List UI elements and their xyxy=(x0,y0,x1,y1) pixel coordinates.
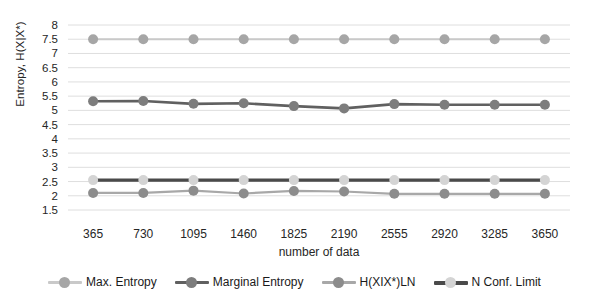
legend-label: Marginal Entropy xyxy=(213,275,304,289)
data-point-marker xyxy=(490,100,500,110)
series-h-xix-ln xyxy=(88,186,550,199)
data-point-marker xyxy=(440,100,450,110)
legend-item-max-entropy[interactable]: Max. Entropy xyxy=(48,275,157,289)
data-point-marker xyxy=(440,34,450,44)
data-point-marker xyxy=(189,99,199,109)
x-tick-label: 1095 xyxy=(168,227,218,241)
x-tick-label: 1460 xyxy=(219,227,269,241)
y-tick-label: 3 xyxy=(22,161,58,173)
data-point-marker xyxy=(339,103,349,113)
data-point-marker xyxy=(490,175,500,185)
data-point-marker xyxy=(88,188,98,198)
chart-legend: Max. EntropyMarginal EntropyH(XIX*)LNN C… xyxy=(0,268,589,296)
data-point-marker xyxy=(189,186,199,196)
y-tick-label: 4 xyxy=(22,133,58,145)
legend-dot xyxy=(59,277,70,288)
legend-dot xyxy=(186,277,197,288)
legend-label: N Conf. Limit xyxy=(472,275,541,289)
data-point-marker xyxy=(289,101,299,111)
x-tick-label: 3650 xyxy=(520,227,570,241)
x-tick-label: 1825 xyxy=(269,227,319,241)
data-point-marker xyxy=(189,34,199,44)
legend-marker-icon xyxy=(434,275,468,289)
data-point-marker xyxy=(540,175,550,185)
y-tick-label: 7 xyxy=(22,47,58,59)
series-line xyxy=(93,191,545,194)
data-point-marker xyxy=(88,96,98,106)
data-point-marker xyxy=(440,175,450,185)
legend-label: H(XIX*)LN xyxy=(360,275,416,289)
data-point-marker xyxy=(339,187,349,197)
legend-label: Max. Entropy xyxy=(86,275,157,289)
y-tick-label: 6.5 xyxy=(22,62,58,74)
data-point-marker xyxy=(138,175,148,185)
data-point-marker xyxy=(189,175,199,185)
data-point-marker xyxy=(239,188,249,198)
data-point-marker xyxy=(88,34,98,44)
data-point-marker xyxy=(490,34,500,44)
data-point-marker xyxy=(540,34,550,44)
x-tick-label: 3285 xyxy=(470,227,520,241)
series-line xyxy=(93,101,545,108)
y-tick-label: 1.5 xyxy=(22,204,58,216)
data-point-marker xyxy=(490,189,500,199)
data-point-marker xyxy=(88,175,98,185)
data-point-marker xyxy=(239,175,249,185)
y-tick-label: 5 xyxy=(22,104,58,116)
data-point-marker xyxy=(289,175,299,185)
data-point-marker xyxy=(138,34,148,44)
data-point-marker xyxy=(339,175,349,185)
y-tick-label: 7.5 xyxy=(22,33,58,45)
legend-item-marginal-entropy[interactable]: Marginal Entropy xyxy=(175,275,304,289)
legend-marker-icon xyxy=(322,275,356,289)
x-tick-label: 2555 xyxy=(369,227,419,241)
data-point-marker xyxy=(540,189,550,199)
data-point-marker xyxy=(138,188,148,198)
series-n-conf-limit xyxy=(88,175,550,185)
data-point-marker xyxy=(239,34,249,44)
legend-marker-icon xyxy=(48,275,82,289)
x-tick-label: 365 xyxy=(68,227,118,241)
data-point-marker xyxy=(289,186,299,196)
y-tick-label: 6 xyxy=(22,76,58,88)
data-point-marker xyxy=(138,96,148,106)
y-tick-label: 2.5 xyxy=(22,176,58,188)
y-tick-label: 2 xyxy=(22,190,58,202)
legend-item-h-xix-ln[interactable]: H(XIX*)LN xyxy=(322,275,416,289)
data-point-marker xyxy=(339,34,349,44)
data-point-marker xyxy=(389,34,399,44)
data-point-marker xyxy=(289,34,299,44)
y-tick-label: 8 xyxy=(22,19,58,31)
data-point-marker xyxy=(239,98,249,108)
y-tick-label: 3.5 xyxy=(22,147,58,159)
data-point-marker xyxy=(389,175,399,185)
legend-dot xyxy=(333,277,344,288)
x-tick-label: 730 xyxy=(118,227,168,241)
data-point-marker xyxy=(389,189,399,199)
x-axis-title: number of data xyxy=(68,245,570,259)
x-tick-label: 2920 xyxy=(419,227,469,241)
legend-marker-icon xyxy=(175,275,209,289)
legend-dot xyxy=(445,277,456,288)
entropy-line-chart: Entropy, H(X|X*) 87.576.565.554.543.532.… xyxy=(0,0,589,304)
data-point-marker xyxy=(540,100,550,110)
legend-item-n-conf-limit[interactable]: N Conf. Limit xyxy=(434,275,541,289)
x-tick-label: 2190 xyxy=(319,227,369,241)
data-point-marker xyxy=(389,99,399,109)
series-max-entropy xyxy=(88,34,550,44)
y-tick-label: 5.5 xyxy=(22,90,58,102)
y-tick-label: 4.5 xyxy=(22,119,58,131)
data-point-marker xyxy=(440,189,450,199)
